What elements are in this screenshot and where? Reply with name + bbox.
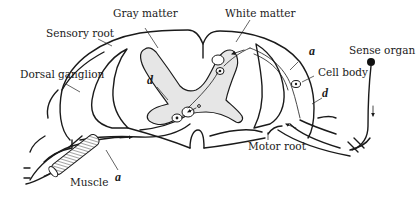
reflex-arc-diagram: Gray matter White matter Sensory root Do… bbox=[0, 0, 417, 209]
left-white-column bbox=[92, 49, 128, 128]
label-d-right: d bbox=[322, 86, 329, 100]
label-a-right: a bbox=[309, 44, 315, 58]
central-canal bbox=[198, 105, 201, 108]
spinal-cord-outline bbox=[60, 30, 314, 140]
label-muscle: Muscle bbox=[70, 176, 108, 188]
label-motor-root: Motor root bbox=[248, 140, 307, 152]
sense-organ-ending bbox=[367, 58, 375, 66]
label-sensory-root: Sensory root bbox=[46, 27, 115, 39]
label-sense-organ: Sense organ bbox=[349, 44, 415, 56]
muscle-body bbox=[50, 132, 102, 176]
label-gray-matter: Gray matter bbox=[113, 7, 179, 19]
ventral-fissure bbox=[190, 130, 204, 148]
label-white-matter: White matter bbox=[225, 7, 297, 19]
dorsal-ganglion bbox=[30, 90, 58, 152]
spinal-cord bbox=[60, 30, 314, 148]
label-dorsal-ganglion: Dorsal ganglion bbox=[20, 68, 105, 80]
right-white-column bbox=[254, 44, 284, 128]
label-a-bottom: a bbox=[115, 170, 121, 184]
label-cell-body: Cell body bbox=[318, 66, 368, 78]
label-d-center: d bbox=[147, 73, 154, 87]
motor-root bbox=[210, 126, 282, 136]
synapse-cluster-upper bbox=[212, 55, 224, 65]
